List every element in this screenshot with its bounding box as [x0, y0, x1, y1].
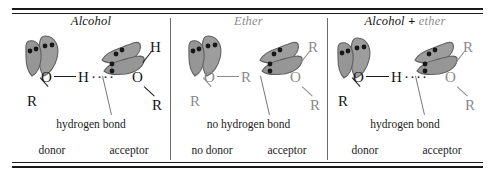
- panel-title-ether-text: Ether: [234, 14, 263, 28]
- role-label-donor: donor: [24, 144, 80, 156]
- mixed-donor-r-group-label: R: [338, 94, 348, 109]
- mixed-bond-o-r-lower: [457, 86, 468, 97]
- hydrogen-bond-caption: hydrogen bond: [12, 118, 170, 130]
- bottom-rule-inner: [12, 162, 483, 163]
- ether-right-r-lower-label: R: [310, 98, 320, 113]
- panel-ether: Ether O R R: [170, 14, 327, 162]
- panel-title-alcohol: Alcohol: [12, 14, 170, 29]
- panel-alcohol: Alcohol O R H ····: [12, 14, 170, 162]
- ether-right-oxygen-label: O: [290, 70, 301, 85]
- panel-title-ether: Ether: [170, 14, 327, 29]
- mixed-bond-o-h: [366, 76, 389, 77]
- panel-title-plus-sign: +: [408, 14, 415, 28]
- role-label-acceptor-mixed: acceptor: [411, 144, 473, 156]
- ether-bond-o-r-chain: [217, 76, 239, 77]
- figure-root: Alcohol O R H ····: [0, 0, 495, 178]
- ether-left-r-group-label: R: [190, 94, 200, 109]
- role-label-donor-mixed: donor: [337, 144, 393, 156]
- acceptor-r-group-label: R: [152, 98, 162, 113]
- mixed-acceptor-r-lower-label: R: [465, 98, 475, 113]
- no-hydrogen-bond-caption: no hydrogen bond: [170, 118, 327, 130]
- panel-title-alcohol-text: Alcohol: [71, 14, 111, 28]
- role-label-no-donor: no donor: [176, 144, 248, 156]
- panel-alcohol-plus-ether: Alcohol + ether O R H ····: [327, 14, 483, 162]
- role-label-acceptor: acceptor: [98, 144, 160, 156]
- mixed-acceptor-oxygen-label: O: [445, 70, 456, 85]
- role-label-acceptor-ether: acceptor: [256, 144, 318, 156]
- donor-r-group-label: R: [27, 94, 37, 109]
- panel-title-alcohol-plus-ether: Alcohol + ether: [327, 14, 483, 29]
- bond-o-r-acceptor: [144, 86, 155, 97]
- panel-title-alcohol-word: Alcohol: [365, 14, 405, 28]
- acceptor-oxygen-label: O: [132, 70, 143, 85]
- ether-bond-o-r-lower: [302, 86, 313, 97]
- panel-title-ether-word: ether: [419, 14, 446, 28]
- top-rule-outer: [12, 8, 483, 10]
- mixed-hydrogen-bond-caption: hydrogen bond: [327, 118, 483, 130]
- bottom-rule-outer: [12, 166, 483, 168]
- bond-o-h-donor: [54, 76, 76, 77]
